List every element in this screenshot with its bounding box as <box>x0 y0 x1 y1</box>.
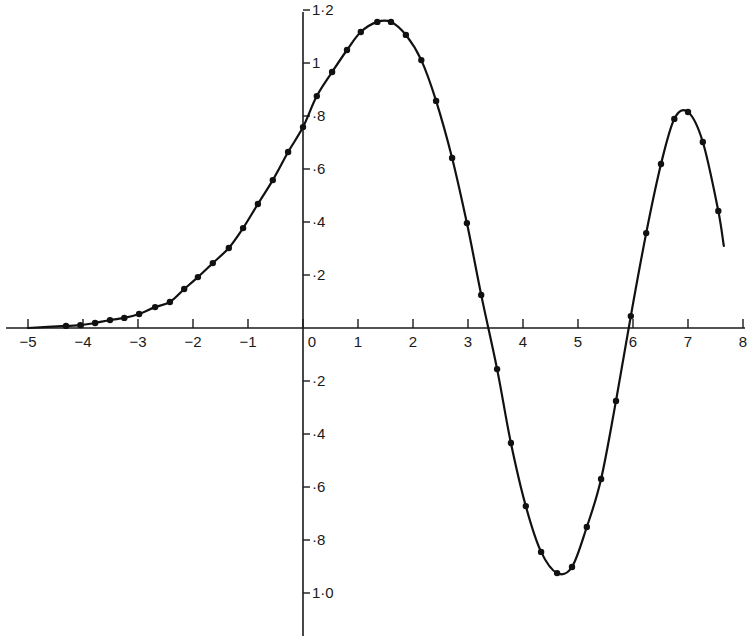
data-point-marker <box>464 220 470 226</box>
data-point-marker <box>107 317 113 323</box>
x-tick-label: −5 <box>19 333 36 350</box>
x-tick-label: 6 <box>629 333 637 350</box>
data-point-marker <box>523 503 529 509</box>
data-point-marker <box>210 260 216 266</box>
data-point-marker <box>418 57 424 63</box>
data-point-marker <box>388 19 394 25</box>
x-tick-label: −2 <box>184 333 201 350</box>
data-point-marker <box>152 304 158 310</box>
data-point-marker <box>344 47 350 53</box>
x-tick-label: 2 <box>409 333 417 350</box>
data-point-marker <box>494 366 500 372</box>
data-point-marker <box>270 177 276 183</box>
data-point-marker <box>449 155 455 161</box>
y-tick-label: ·4 <box>312 213 325 230</box>
x-tick-label: 3 <box>464 333 472 350</box>
data-point-marker <box>584 524 590 530</box>
data-curve <box>28 20 724 574</box>
y-tick-label: ·8 <box>312 531 325 548</box>
data-point-marker <box>255 201 261 207</box>
data-point-marker <box>167 299 173 305</box>
data-point-marker <box>77 322 83 328</box>
data-point-marker <box>569 564 575 570</box>
data-point-marker <box>403 32 409 38</box>
data-point-marker <box>628 313 634 319</box>
x-tick-label: −4 <box>74 333 91 350</box>
y-tick-label: ·6 <box>312 478 325 495</box>
x-tick-label: −1 <box>239 333 256 350</box>
x-tick-label: 0 <box>308 333 316 350</box>
x-tick-label: 8 <box>739 333 747 350</box>
data-point-marker <box>598 476 604 482</box>
data-point-marker <box>613 398 619 404</box>
data-point-marker <box>538 549 544 555</box>
y-tick-label: ·2 <box>312 372 325 389</box>
data-point-marker <box>329 69 335 75</box>
x-tick-label: 7 <box>684 333 692 350</box>
data-point-marker <box>92 320 98 326</box>
data-point-marker <box>658 161 664 167</box>
y-ticks: 1·21·8·6·4·2·2·4·6·81·0 <box>303 1 334 601</box>
x-tick-label: −3 <box>129 333 146 350</box>
data-point-marker <box>358 29 364 35</box>
y-tick-label: ·4 <box>312 425 325 442</box>
data-point-marker <box>226 245 232 251</box>
x-tick-label: 4 <box>519 333 527 350</box>
chart: −5−4−3−2−1012345678 1·21·8·6·4·2·2·4·6·8… <box>0 0 754 641</box>
data-point-marker <box>121 315 127 321</box>
data-point-marker <box>136 311 142 317</box>
data-point-marker <box>240 225 246 231</box>
axes <box>6 12 745 636</box>
y-tick-label: 1·2 <box>312 1 334 18</box>
y-tick-label: 1·0 <box>312 584 334 601</box>
data-point-marker <box>374 19 380 25</box>
data-point-marker <box>433 98 439 104</box>
data-point-marker <box>715 208 721 214</box>
data-point-marker <box>314 93 320 99</box>
data-point-marker <box>478 292 484 298</box>
y-tick-label: ·2 <box>312 266 325 283</box>
y-tick-label: ·8 <box>312 107 325 124</box>
data-point-marker <box>554 570 560 576</box>
x-tick-label: 5 <box>574 333 582 350</box>
data-point-marker <box>63 323 69 329</box>
x-tick-label: 1 <box>354 333 362 350</box>
y-tick-label: 1 <box>312 54 320 71</box>
data-point-marker <box>685 109 691 115</box>
data-point-marker <box>671 116 677 122</box>
data-point-marker <box>508 440 514 446</box>
data-point-marker <box>700 139 706 145</box>
data-point-marker <box>285 149 291 155</box>
data-points <box>63 19 722 577</box>
y-tick-label: ·6 <box>312 160 325 177</box>
data-point-marker <box>643 230 649 236</box>
data-point-marker <box>181 286 187 292</box>
x-ticks: −5−4−3−2−1012345678 <box>19 319 747 350</box>
data-point-marker <box>195 274 201 280</box>
data-point-marker <box>300 124 306 130</box>
